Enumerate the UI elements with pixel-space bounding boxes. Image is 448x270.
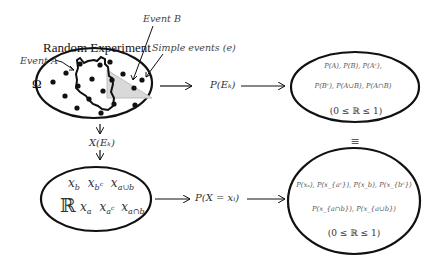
x-b-symbol: xb — [68, 176, 80, 190]
p-x-equals-xi-label: P(X = xᵢ) — [195, 193, 239, 203]
event-probs-line2: P(Bᶜ), P(A∪B), P(A∩B) — [315, 83, 392, 90]
probability-diagram: Random Experiment Event A Event B Simple… — [0, 0, 448, 270]
random-experiment-label: Random Experiment — [43, 41, 151, 54]
rv-row-1: xb xbc xa∪b — [68, 177, 134, 192]
x-a-intersect-b-symbol: xa∩b — [121, 200, 144, 214]
rv-probs-line2: P(x_{a∩b}), P(x_{a∪b}) — [312, 206, 396, 213]
rv-probs-line1: P(xₐ), P(x_{aᶜ}), P(x_b), P(x_{bᶜ}) — [296, 182, 411, 189]
rv-row-2: xa xac xa∩b — [80, 201, 145, 216]
x-a-complement-symbol: xac — [99, 200, 114, 214]
x-ek-label: X(Eₖ) — [89, 138, 115, 148]
equivalence-symbol: ≡ — [350, 136, 359, 147]
rv-probabilities-ellipse — [288, 148, 420, 254]
reals-symbol: ℝ — [60, 196, 76, 215]
simple-events-pointer — [146, 54, 163, 77]
p-ek-label: P(Eₖ) — [210, 80, 235, 90]
x-a-union-b-symbol: xa∪b — [111, 176, 134, 190]
event-a-label: Event A — [20, 56, 58, 66]
event-probs-line1: P(A), P(B), P(Aᶜ), — [324, 63, 382, 70]
x-a-symbol: xa — [80, 200, 92, 214]
rv-probs-range: (0 ≤ ℝ ≤ 1) — [328, 229, 380, 238]
omega-label: Ω — [32, 77, 42, 90]
x-b-complement-symbol: xbc — [88, 176, 103, 190]
simple-events-label: Simple events (e) — [152, 43, 236, 53]
event-b-label: Event B — [143, 14, 181, 24]
event-probs-range: (0 ≤ ℝ ≤ 1) — [330, 107, 382, 116]
